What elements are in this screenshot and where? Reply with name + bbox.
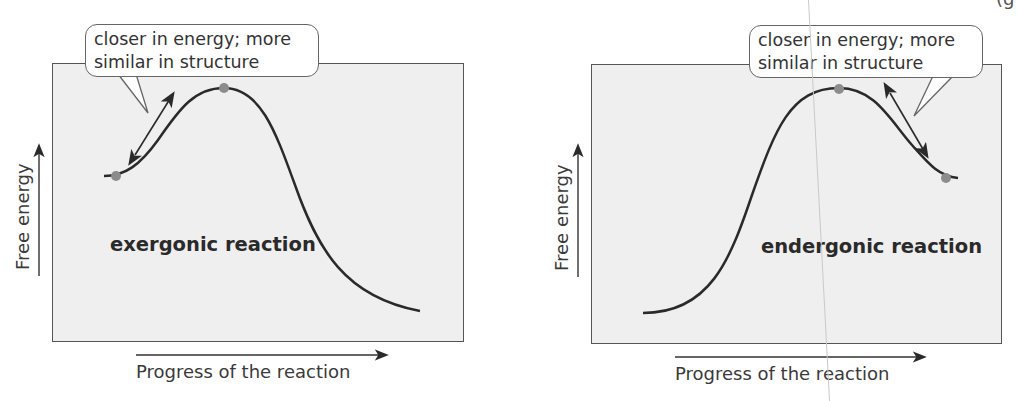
reaction-type-label: exergonic reaction [110, 233, 316, 256]
callout-pointer [914, 76, 953, 116]
transition-state-point [834, 84, 844, 94]
transition-state-point [219, 83, 229, 93]
y-axis-label: Free energy [551, 164, 572, 271]
annotation-callout: closer in energy; more similar in struct… [85, 24, 319, 77]
reactant-point [111, 171, 121, 181]
callout-line-2: similar in structure [94, 51, 310, 74]
annotation-callout: closer in energy; more similar in struct… [749, 25, 983, 78]
y-axis-label: Free energy [12, 163, 33, 270]
callout-line-1: closer in energy; more [94, 28, 310, 51]
exergonic-diagram: closer in energy; more similar in struct… [0, 0, 508, 401]
energy-curve [104, 88, 420, 311]
endergonic-diagram: closer in energy; more similar in struct… [540, 0, 1017, 401]
energy-curve [643, 88, 958, 313]
callout-line-2: similar in structure [758, 52, 974, 75]
x-axis-label: Progress of the reaction [136, 361, 350, 382]
x-axis-label: Progress of the reaction [675, 363, 889, 384]
product-point [941, 173, 951, 183]
callout-pointer [118, 74, 148, 113]
reaction-type-label: endergonic reaction [761, 235, 982, 258]
callout-line-1: closer in energy; more [758, 29, 974, 52]
